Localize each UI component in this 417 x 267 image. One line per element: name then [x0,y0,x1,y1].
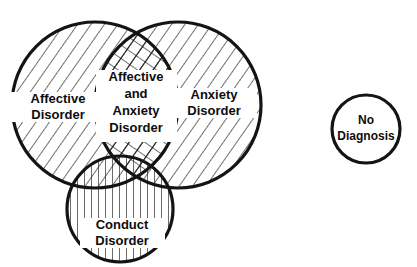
conduct-disorder-label-line1: Conduct [96,217,149,232]
affective-and-anxiety-disorder-label: Affective and Anxiety Disorder [96,69,177,142]
venn-diagram-root: Affective Disorder Anxiety Disorder Affe… [0,0,417,267]
intersection-label-line1: Affective [109,69,164,84]
affective-disorder-label-line2: Disorder [31,107,84,122]
anxiety-disorder-label: Anxiety Disorder [172,87,257,118]
intersection-label-line3: Anxiety [113,103,161,118]
venn-diagram-canvas: Affective Disorder Anxiety Disorder Affe… [0,0,417,267]
intersection-label-line4: Disorder [109,120,162,135]
no-diagnosis-label: No Diagnosis [337,113,395,143]
affective-disorder-label-line1: Affective [31,91,86,106]
anxiety-disorder-label-line2: Disorder [187,103,240,118]
no-diagnosis-label-line1: No [358,113,374,127]
conduct-disorder-label: Conduct Disorder [80,217,165,248]
anxiety-disorder-label-line1: Anxiety [191,87,239,102]
intersection-label-line2: and [124,86,147,101]
conduct-disorder-label-line2: Disorder [95,233,148,248]
affective-disorder-label: Affective Disorder [10,91,106,122]
no-diagnosis-label-line2: Diagnosis [337,129,395,143]
